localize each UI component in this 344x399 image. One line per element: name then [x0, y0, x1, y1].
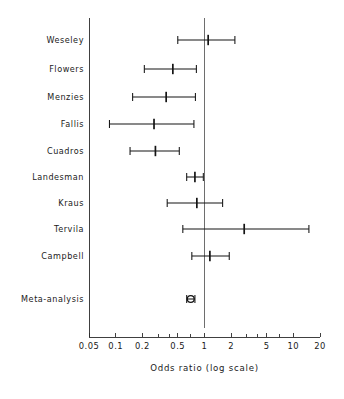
- axis-tick-group: [89, 333, 320, 338]
- study-label: Cuadros: [47, 146, 84, 156]
- forest-row: Menzies: [47, 92, 195, 102]
- forest-row: Cuadros: [47, 146, 179, 156]
- axis-tick-label: 0.05: [79, 341, 100, 351]
- study-label: Flowers: [49, 64, 84, 74]
- forest-row: Kraus: [58, 198, 222, 208]
- study-label: Campbell: [41, 251, 84, 261]
- axis-tick-label: 0.2: [135, 341, 150, 351]
- axis-tick-label: 20: [314, 341, 326, 351]
- study-label: Landesman: [32, 172, 84, 182]
- forest-row: Landesman: [32, 172, 203, 182]
- forest-row: Weseley: [46, 35, 234, 45]
- axis-tick-label: 2: [228, 341, 234, 351]
- forest-row: Tervila: [53, 224, 309, 234]
- study-label: Menzies: [47, 92, 84, 102]
- forest-row: Fallis: [61, 119, 194, 129]
- study-label: Meta-analysis: [21, 294, 84, 304]
- axis-tick-label: 0.5: [170, 341, 185, 351]
- x-axis-title: Odds ratio (log scale): [150, 363, 259, 373]
- forest-row: Meta-analysis: [21, 294, 195, 304]
- study-label: Fallis: [61, 119, 84, 129]
- forest-rows-group: WeseleyFlowersMenziesFallisCuadrosLandes…: [21, 35, 309, 304]
- forest-plot-canvas: 0.050.10.20.51251020 WeseleyFlowersMenzi…: [0, 0, 344, 399]
- axis-tick-label: 1: [202, 341, 208, 351]
- study-label: Kraus: [58, 198, 84, 208]
- axis-tick-label: 0.1: [108, 341, 123, 351]
- axis-tick-label: 10: [287, 341, 299, 351]
- forest-row: Flowers: [49, 64, 196, 74]
- study-label: Tervila: [53, 224, 84, 234]
- axis-tick-label-group: 0.050.10.20.51251020: [79, 341, 326, 351]
- forest-row: Campbell: [41, 251, 229, 261]
- study-label: Weseley: [46, 35, 84, 45]
- axis-tick-label: 5: [264, 341, 270, 351]
- forest-plot-figure: 0.050.10.20.51251020 WeseleyFlowersMenzi…: [0, 0, 344, 399]
